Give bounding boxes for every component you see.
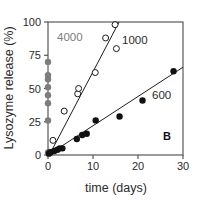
- lysozyme-release-scatter-chart: 0 10 20 30 0 25 50 75 100 time (days) Ly…: [0, 0, 198, 201]
- marker-4000: [45, 72, 51, 78]
- marker-1000: [92, 70, 98, 76]
- xtick-label-30: 30: [177, 160, 189, 172]
- marker-4000: [45, 92, 51, 98]
- ytick-label-50: 50: [29, 83, 41, 95]
- marker-600: [139, 97, 145, 103]
- y-axis-title: Lysozyme release (%): [2, 26, 16, 149]
- marker-4000: [45, 100, 51, 106]
- marker-600: [170, 68, 176, 74]
- marker-1000: [113, 46, 119, 52]
- series-label-600: 600: [152, 89, 171, 101]
- marker-600: [59, 145, 65, 151]
- ytick-label-75: 75: [29, 49, 41, 61]
- figure-panel-b: 0 10 20 30 0 25 50 75 100 time (days) Ly…: [0, 0, 198, 201]
- xtick-label-10: 10: [87, 160, 99, 172]
- series-label-1000: 1000: [122, 34, 148, 46]
- marker-4000: [45, 117, 51, 123]
- series-label-4000: 4000: [57, 31, 83, 43]
- ytick-label-0: 0: [35, 149, 41, 161]
- marker-600: [84, 131, 90, 137]
- marker-600: [116, 113, 122, 119]
- marker-600: [74, 136, 80, 142]
- xtick-label-20: 20: [132, 160, 144, 172]
- panel-label: B: [163, 130, 171, 142]
- ytick-label-100: 100: [23, 16, 41, 28]
- marker-4000: [45, 84, 51, 90]
- ytick-label-25: 25: [29, 116, 41, 128]
- marker-1000: [76, 86, 82, 92]
- xtick-label-0: 0: [45, 160, 51, 172]
- marker-1000: [112, 22, 118, 28]
- x-axis-title: time (days): [85, 181, 147, 195]
- marker-1000: [103, 35, 109, 41]
- marker-4000: [45, 59, 51, 65]
- marker-1000: [50, 137, 56, 143]
- marker-600: [93, 117, 99, 123]
- marker-1000: [61, 108, 67, 114]
